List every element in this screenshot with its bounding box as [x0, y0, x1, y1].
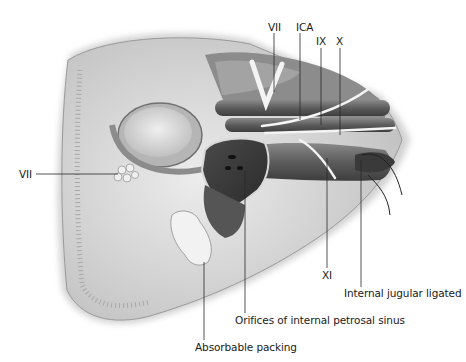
label-vii-left: VII [19, 168, 32, 180]
label-vii-top: VII [268, 21, 281, 33]
label-internal-jugular: Internal jugular ligated [344, 287, 461, 299]
illustration-canvas [0, 0, 466, 362]
label-ica: ICA [296, 21, 313, 33]
label-ix: IX [316, 35, 326, 47]
label-x: X [336, 35, 343, 47]
anatomical-figure: VII ICA IX X VII XI Internal jugular lig… [0, 0, 466, 362]
label-absorbable-packing: Absorbable packing [195, 341, 297, 353]
label-orifices: Orifices of internal petrosal sinus [235, 314, 405, 326]
label-xi: XI [322, 269, 332, 281]
